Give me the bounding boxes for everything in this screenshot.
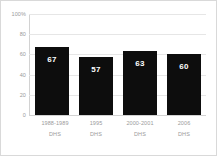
x-tick-label-1-line2: DHS: [73, 129, 119, 140]
bar-value-label-0: 67: [35, 55, 69, 64]
x-axis-tick-labels: 1988-1989 DHS 1995 DHS 2000-2001 DHS 200…: [29, 118, 206, 151]
bar-2006[interactable]: 60: [167, 54, 201, 115]
y-tick-label-60: 60: [0, 51, 26, 57]
bar-group-3: 60: [167, 14, 201, 115]
x-tick-label-1: 1995 DHS: [73, 118, 119, 140]
y-axis-tick-labels: 0 20 40 60 80 100%: [1, 14, 26, 115]
bar-1988-1989[interactable]: 67: [35, 47, 69, 115]
x-tick-label-3-line1: 2006: [178, 120, 191, 126]
bar-group-1: 57: [79, 14, 113, 115]
x-tick-label-0-line1: 1988-1989: [41, 120, 68, 126]
y-tick-label-20: 20: [0, 92, 26, 98]
bar-value-label-3: 60: [167, 62, 201, 71]
bar-chart: 0 20 40 60 80 100% 67 57 63: [0, 0, 217, 156]
bar-group-2: 63: [123, 14, 157, 115]
bar-2000-2001[interactable]: 63: [123, 51, 157, 115]
y-tick-label-80: 80: [0, 31, 26, 37]
bar-value-label-1: 57: [79, 65, 113, 74]
x-tick-label-2: 2000-2001 DHS: [114, 118, 166, 140]
bar-group-0: 67: [35, 14, 69, 115]
y-tick-label-0: 0: [0, 112, 26, 118]
x-tick-label-2-line1: 2000-2001: [126, 120, 153, 126]
bars-layer: 67 57 63 60: [29, 14, 206, 115]
bar-1995[interactable]: 57: [79, 57, 113, 115]
x-tick-label-2-line2: DHS: [114, 129, 166, 140]
gridline-0: [29, 115, 206, 116]
x-tick-label-1-line1: 1995: [90, 120, 103, 126]
x-tick-label-3: 2006 DHS: [161, 118, 207, 140]
y-tick-label-100: 100%: [0, 11, 26, 17]
bar-value-label-2: 63: [123, 59, 157, 68]
y-tick-label-40: 40: [0, 72, 26, 78]
x-tick-label-3-line2: DHS: [161, 129, 207, 140]
